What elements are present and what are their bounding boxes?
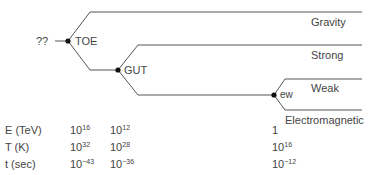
ew-value: 1 (272, 125, 278, 136)
toe-value: 10−43 (70, 159, 94, 170)
row-label: t (sec) (5, 159, 36, 170)
gut-value: 1028 (110, 142, 130, 153)
ew-label: ew (280, 90, 293, 100)
ew-node-dot (271, 92, 276, 97)
gut-node-dot (115, 67, 120, 72)
strong-label: Strong (311, 50, 343, 61)
gut-label: GUT (124, 65, 147, 76)
gut-value: 10−36 (110, 159, 134, 170)
weak-label: Weak (311, 83, 339, 94)
toe-label: TOE (75, 36, 97, 47)
row-label: E (TeV) (5, 125, 42, 136)
ew-value: 10−12 (272, 159, 296, 170)
toe-node-dot (65, 38, 70, 43)
origin-label: ?? (36, 36, 48, 47)
toe-value: 1032 (70, 142, 90, 153)
toe-value: 1016 (70, 125, 90, 136)
row-label: T (K) (5, 142, 29, 153)
gravity-label: Gravity (311, 17, 346, 28)
gut-value: 1012 (110, 125, 130, 136)
electromagnetic-label: Electromagnetic (285, 115, 364, 126)
ew-value: 1016 (272, 142, 292, 153)
